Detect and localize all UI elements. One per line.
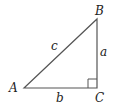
right-triangle-diagram: B A C a b c <box>0 0 113 107</box>
vertex-label-b: B <box>94 4 104 18</box>
vertex-label-a: A <box>8 81 18 95</box>
side-label-b: b <box>56 91 64 105</box>
right-angle-marker <box>88 79 97 88</box>
side-label-a: a <box>100 45 107 59</box>
side-label-c: c <box>51 39 58 53</box>
vertex-label-c: C <box>95 91 104 105</box>
triangle-shape <box>24 19 97 88</box>
